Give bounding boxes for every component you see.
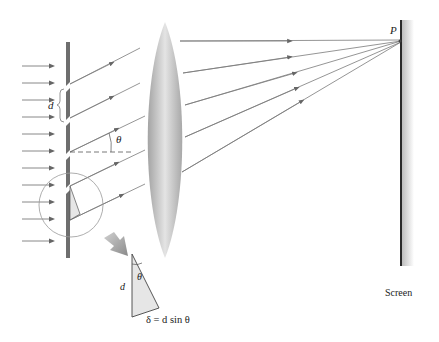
slit-spacing-label: d (48, 99, 54, 111)
screen-label: Screen (385, 287, 412, 298)
angle-label: θ (116, 133, 122, 145)
triangle-side-label: d (120, 281, 126, 292)
path-difference-label: δ = d sin θ (146, 314, 190, 325)
slit-spacing-brace (57, 89, 64, 122)
incident-light-arrows (22, 66, 52, 241)
screen-shadow (402, 20, 414, 266)
converging-lens (148, 22, 183, 258)
point-p-dot (399, 40, 402, 43)
screen (400, 20, 402, 266)
diffraction-grating (66, 42, 70, 258)
diffracted-rays (70, 48, 145, 220)
small-triangle (70, 186, 80, 220)
diffraction-diagram: d θ d θ δ = d sin (0, 0, 439, 342)
path-difference-triangle (132, 254, 159, 317)
focused-rays (180, 40, 401, 172)
triangle-angle-label: θ (137, 271, 142, 282)
angle-arc (109, 133, 111, 152)
point-p-label: P (389, 24, 397, 36)
zoom-arrow-icon (104, 232, 128, 256)
